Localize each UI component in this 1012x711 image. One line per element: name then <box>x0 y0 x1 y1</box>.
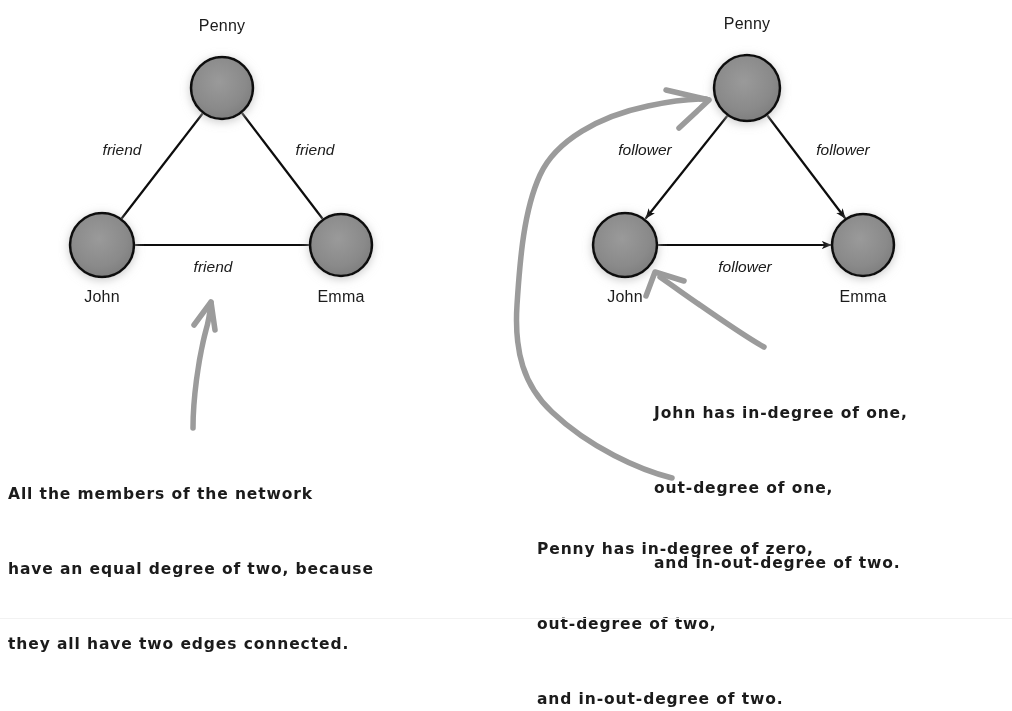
annotation-line: and in-out-degree of two. <box>537 687 814 711</box>
edge-label-penny-emma: follower <box>816 141 870 158</box>
edge-label-john-emma: friend <box>194 258 234 275</box>
edge-penny-to-john <box>646 115 728 218</box>
annotation-line: out-degree of two, <box>537 612 814 637</box>
pointer-john-note <box>646 272 764 347</box>
node-label-john: John <box>84 288 120 305</box>
annotation-penny-note: Penny has in-degree of zero, out-degree … <box>537 487 814 711</box>
edge-label-penny-emma: friend <box>296 141 336 158</box>
pointer-left-note <box>193 302 215 428</box>
right-graph-edges <box>646 115 845 245</box>
node-label-penny: Penny <box>199 17 245 34</box>
annotation-line: John has in-degree of one, <box>654 401 908 426</box>
edge-penny-emma <box>242 113 322 218</box>
node-emma[interactable] <box>832 214 894 276</box>
node-john[interactable] <box>70 213 134 277</box>
node-penny[interactable] <box>191 57 253 119</box>
right-graph-nodes <box>593 55 894 277</box>
annotation-line: Penny has in-degree of zero, <box>537 537 814 562</box>
node-label-john: John <box>607 288 643 305</box>
left-graph-edge-labels: friend friend friend <box>103 141 336 275</box>
annotation-left-note: All the members of the network have an e… <box>8 432 374 707</box>
annotation-line: have an equal degree of two, because <box>8 557 374 582</box>
node-john[interactable] <box>593 213 657 277</box>
node-emma[interactable] <box>310 214 372 276</box>
left-graph-edges <box>122 113 322 245</box>
left-graph: Penny John Emma friend friend friend <box>70 17 372 305</box>
edge-penny-john <box>122 113 203 218</box>
node-label-emma: Emma <box>317 288 364 305</box>
node-label-emma: Emma <box>839 288 886 305</box>
edge-label-john-emma: follower <box>718 258 772 275</box>
edge-label-penny-john: friend <box>103 141 143 158</box>
annotation-line: All the members of the network <box>8 482 374 507</box>
edge-penny-to-emma <box>767 115 845 218</box>
page-baseline-rule <box>0 618 1012 619</box>
annotation-line: they all have two edges connected. <box>8 632 374 657</box>
node-label-penny: Penny <box>724 15 770 32</box>
edge-label-penny-john: follower <box>618 141 672 158</box>
right-graph: Penny John Emma follower follower follow… <box>593 15 894 305</box>
node-penny[interactable] <box>714 55 780 121</box>
